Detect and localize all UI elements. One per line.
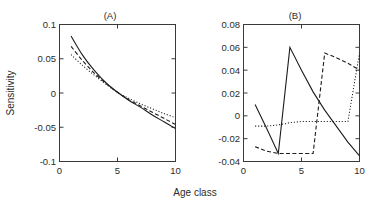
panel-a-series-dotted <box>71 55 175 118</box>
panel-b-frame <box>244 25 360 162</box>
panel-a-xtick-2: 10 <box>170 165 181 176</box>
figure-svg: (A) 0.1 0.05 0 -0.05 -0.1 <box>0 0 379 205</box>
panel-b-series-dotted <box>255 53 359 126</box>
panel-b-xtick-1: 5 <box>299 165 304 176</box>
panel-b-ytick-6: 0.08 <box>222 19 241 30</box>
panel-b-series-solid <box>255 47 359 155</box>
panel-a-ytick-2: 0 <box>51 88 56 99</box>
panel-b-ytick-1: -0.02 <box>218 133 240 144</box>
x-axis-title: Age class <box>173 187 216 198</box>
panel-a-ytick-4: 0.1 <box>43 19 56 30</box>
panel-b-xtick-0: 0 <box>241 165 246 176</box>
y-axis-title: Sensitivity <box>5 70 16 115</box>
panel-a-ytick-1: -0.05 <box>34 122 56 133</box>
panel-a-series-dashed <box>71 46 175 124</box>
panel-b-xticks <box>244 25 360 162</box>
panel-a-title: (A) <box>104 10 117 21</box>
panel-b-xtick-2: 10 <box>354 165 365 176</box>
panel-b-ytick-3: 0.02 <box>222 88 241 99</box>
panel-b: (B) 0.08 0.06 0.04 0 <box>218 10 364 176</box>
panel-b-yticks <box>244 25 360 162</box>
panel-a-xtick-1: 5 <box>115 165 120 176</box>
panel-a-ytick-0: -0.1 <box>40 156 56 167</box>
panel-a: (A) 0.1 0.05 0 -0.05 -0.1 <box>34 10 180 176</box>
panel-b-ytick-2: 0 <box>235 110 240 121</box>
figure-container: (A) 0.1 0.05 0 -0.05 -0.1 <box>0 0 379 205</box>
panel-b-ytick-0: -0.04 <box>218 156 240 167</box>
panel-b-ytick-4: 0.04 <box>222 65 241 76</box>
panel-a-xtick-0: 0 <box>57 165 62 176</box>
panel-b-title: (B) <box>289 10 302 21</box>
panel-a-series-solid <box>71 36 175 128</box>
panel-a-ytick-3: 0.05 <box>38 53 57 64</box>
panel-b-ytick-5: 0.06 <box>222 42 241 53</box>
